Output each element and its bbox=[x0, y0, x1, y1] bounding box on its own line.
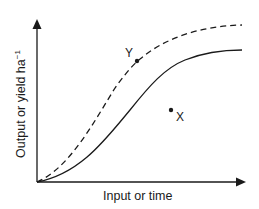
y-axis-label-superscript: −1 bbox=[13, 50, 22, 60]
solid-curve bbox=[37, 50, 242, 182]
point-x-dot bbox=[169, 108, 173, 112]
point-y-dot bbox=[135, 59, 139, 63]
y-axis-arrow-icon bbox=[33, 19, 42, 29]
y-axis-label-text: Output or yield ha bbox=[14, 59, 28, 158]
x-axis-label: Input or time bbox=[103, 189, 173, 203]
point-y-label: Y bbox=[125, 46, 133, 60]
y-axis-label: Output or yield ha−1 bbox=[13, 50, 28, 158]
point-x-label: X bbox=[176, 110, 184, 124]
x-axis-arrow-icon bbox=[236, 178, 246, 187]
dashed-curve bbox=[37, 25, 242, 182]
yield-response-diagram: Y X Input or time Output or yield ha−1 bbox=[0, 0, 259, 209]
